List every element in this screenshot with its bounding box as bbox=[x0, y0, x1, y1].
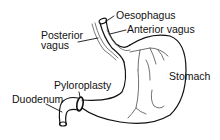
anterior-vagus-label: Anterior vagus bbox=[127, 24, 195, 35]
posterior-vagus-label-line2: vagus bbox=[41, 40, 69, 51]
stomach-label: Stomach bbox=[169, 71, 210, 82]
pyloroplasty-label: Pyloroplasty bbox=[54, 80, 111, 91]
oesophagus-leader bbox=[108, 16, 114, 20]
duodenum-label: Duodenum bbox=[12, 94, 63, 105]
oesophagus-label: Oesophagus bbox=[116, 10, 176, 21]
diagram: Oesophagus Anterior vagus Posterior vagu… bbox=[0, 0, 220, 140]
anterior-vagus-leader bbox=[110, 30, 126, 34]
posterior-vagus-nerve bbox=[92, 24, 116, 60]
pyloroplasty-leader bbox=[79, 92, 80, 97]
